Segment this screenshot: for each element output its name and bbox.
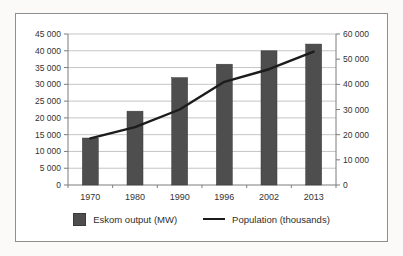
svg-text:0: 0 xyxy=(343,180,348,190)
svg-text:50 000: 50 000 xyxy=(343,54,369,64)
svg-text:20 000: 20 000 xyxy=(35,113,61,123)
svg-text:2013: 2013 xyxy=(304,192,324,202)
scanned-chart-page: 45 00040 00035 00030 00025 00020 00015 0… xyxy=(0,0,403,256)
svg-text:5 000: 5 000 xyxy=(40,163,62,173)
svg-text:40 000: 40 000 xyxy=(35,46,61,56)
legend-item-eskom-output: Eskom output (MW) xyxy=(73,213,177,226)
svg-text:35 000: 35 000 xyxy=(35,63,61,73)
bar-series-swatch-icon xyxy=(73,213,86,226)
svg-text:0: 0 xyxy=(56,180,61,190)
svg-text:30 000: 30 000 xyxy=(35,79,61,89)
svg-text:40 000: 40 000 xyxy=(343,79,369,89)
chart-legend: Eskom output (MW) Population (thousands) xyxy=(16,210,387,228)
svg-text:60 000: 60 000 xyxy=(343,29,369,39)
svg-text:20 000: 20 000 xyxy=(343,130,369,140)
svg-text:25 000: 25 000 xyxy=(35,96,61,106)
svg-text:30 000: 30 000 xyxy=(343,105,369,115)
legend-item-population: Population (thousands) xyxy=(203,214,330,225)
svg-text:1990: 1990 xyxy=(170,192,190,202)
combo-chart: 45 00040 00035 00030 00025 00020 00015 0… xyxy=(16,14,387,206)
bar-series-label: Eskom output (MW) xyxy=(93,214,177,225)
svg-text:1980: 1980 xyxy=(125,192,145,202)
chart-frame: 45 00040 00035 00030 00025 00020 00015 0… xyxy=(15,13,388,242)
svg-text:10 000: 10 000 xyxy=(35,146,61,156)
line-series-label: Population (thousands) xyxy=(232,214,330,225)
svg-text:15 000: 15 000 xyxy=(35,130,61,140)
svg-text:1996: 1996 xyxy=(214,192,234,202)
svg-text:2002: 2002 xyxy=(259,192,279,202)
svg-text:10 000: 10 000 xyxy=(343,155,369,165)
line-series-swatch-icon xyxy=(203,218,225,221)
svg-text:1970: 1970 xyxy=(80,192,100,202)
svg-text:45 000: 45 000 xyxy=(35,29,61,39)
